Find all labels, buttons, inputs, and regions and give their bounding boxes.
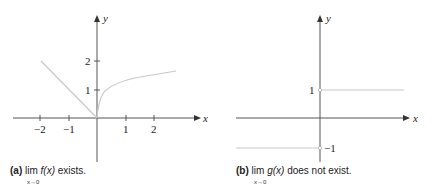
caption-a-label: (a) <box>10 165 22 176</box>
x-tick-label: 2 <box>151 123 157 135</box>
caption-a: (a) lim f(x) exists. <box>10 165 86 176</box>
x-axis-arrow-icon <box>194 115 201 121</box>
panel-a-plot: −2 −1 1 2 1 2 x y <box>13 12 208 162</box>
caption-a-subscript: x→0 <box>27 179 39 185</box>
caption-b-func: g(x) <box>267 165 284 176</box>
open-circle-icon <box>318 146 321 149</box>
y-tick-label: 1 <box>85 84 91 96</box>
caption-b-lim: lim <box>252 165 265 176</box>
caption-b: (b) lim g(x) does not exist. <box>236 165 352 176</box>
caption-b-subscript: x→0 <box>254 179 266 185</box>
panel-b-plot: 1 −1 x y <box>236 12 418 162</box>
y-axis-label: y <box>325 12 331 24</box>
y-axis-label: y <box>102 12 108 24</box>
x-axis-label: x <box>412 112 418 124</box>
x-tick-label: −1 <box>63 123 75 135</box>
caption-a-lim: lim <box>25 165 38 176</box>
y-tick-label: 1 <box>309 84 315 96</box>
y-tick-label: −1 <box>324 142 336 154</box>
x-tick-label: −2 <box>34 123 46 135</box>
caption-b-label: (b) <box>236 165 249 176</box>
y-axis-arrow-icon <box>94 15 100 22</box>
y-tick-label: 2 <box>85 55 91 67</box>
open-circle-icon <box>318 88 321 91</box>
caption-b-text: does not exist. <box>287 165 351 176</box>
x-tick-label: 1 <box>123 123 129 135</box>
f-right-branch-sqrt <box>97 71 176 118</box>
caption-a-func: f(x) <box>41 165 55 176</box>
caption-a-text: exists. <box>58 165 86 176</box>
x-axis-label: x <box>202 112 208 124</box>
x-axis-arrow-icon <box>403 115 410 121</box>
y-axis-arrow-icon <box>317 15 323 22</box>
